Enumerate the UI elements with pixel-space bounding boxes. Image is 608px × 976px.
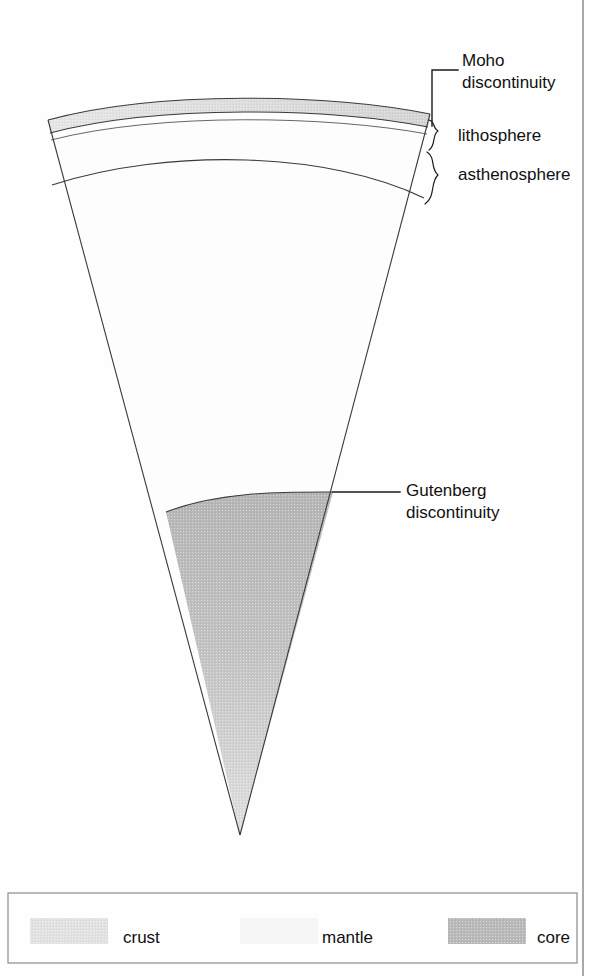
lithosphere-label: lithosphere: [458, 126, 541, 145]
moho-label-line2: discontinuity: [462, 73, 556, 92]
legend-item-core: core: [448, 918, 570, 947]
legend-label-core: core: [537, 928, 570, 947]
core-region-texture: [166, 492, 333, 835]
legend-item-mantle: mantle: [240, 918, 373, 947]
asthenosphere-label: asthenosphere: [458, 165, 570, 184]
lithosphere-brace: [429, 120, 438, 150]
moho-label-line1: Moho: [462, 51, 505, 70]
gutenberg-label-line1: Gutenberg: [406, 481, 486, 500]
legend-swatch-crust-texture: [30, 918, 108, 944]
gutenberg-label-line2: discontinuity: [406, 503, 500, 522]
legend-label-crust: crust: [123, 928, 160, 947]
legend-label-mantle: mantle: [322, 928, 373, 947]
asthenosphere-brace: [425, 152, 438, 204]
legend-item-crust: crust: [30, 918, 160, 947]
legend-swatch-mantle: [240, 918, 318, 944]
earth-cross-section-diagram: Moho discontinuity lithosphere asthenosp…: [0, 0, 608, 976]
legend-swatch-core-texture: [448, 918, 526, 944]
page-canvas: Moho discontinuity lithosphere asthenosp…: [0, 0, 608, 976]
moho-leader-line: [432, 70, 458, 126]
